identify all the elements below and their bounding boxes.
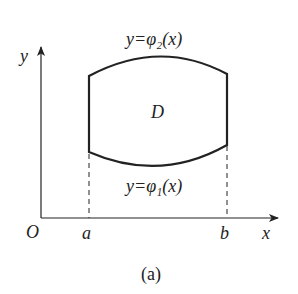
bound-b-label: b bbox=[220, 223, 229, 243]
figure-caption: (a) bbox=[141, 264, 161, 285]
region-diagram: y=φ₂(x) D y=φ₁(x) y O a b x (a) bbox=[0, 0, 298, 294]
bound-a-label: a bbox=[82, 223, 91, 243]
origin-label: O bbox=[26, 222, 39, 242]
upper-curve-label: y=φ₂(x) bbox=[124, 29, 182, 50]
region-label: D bbox=[150, 102, 164, 122]
x-axis-label: x bbox=[261, 223, 270, 243]
y-axis-label: y bbox=[18, 46, 28, 66]
lower-curve-label: y=φ₁(x) bbox=[124, 176, 182, 197]
